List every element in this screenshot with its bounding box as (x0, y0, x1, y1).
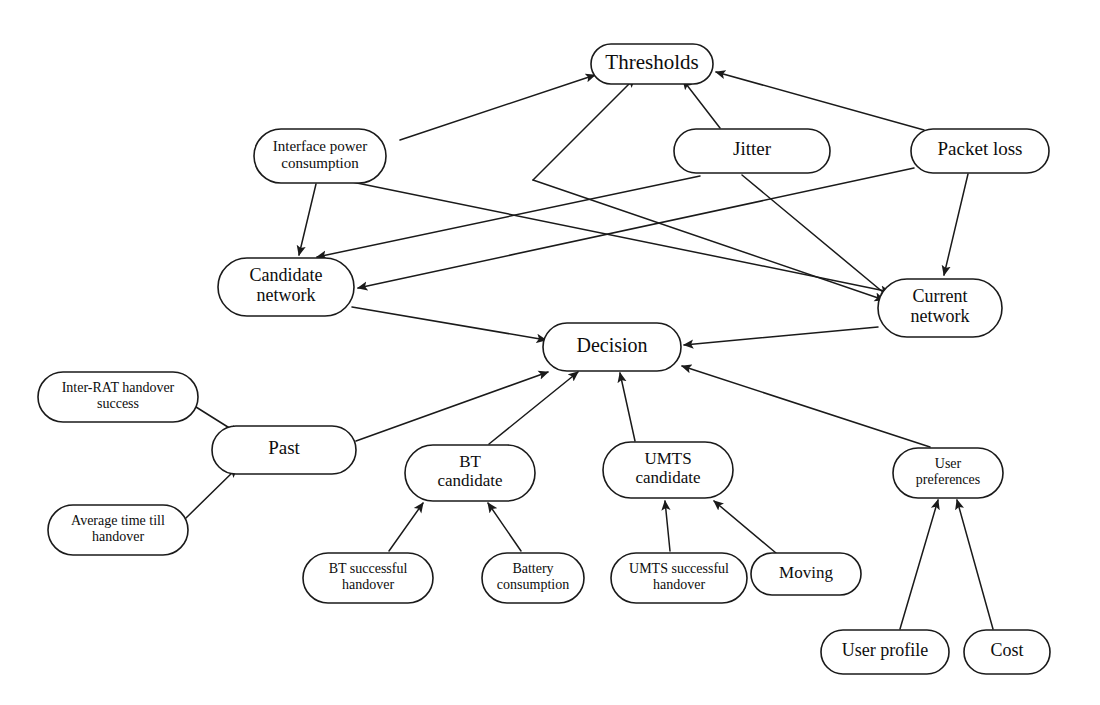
node-label-packet_loss: Packet loss (938, 138, 1023, 159)
node-cost[interactable]: Cost (964, 630, 1050, 674)
node-packet_loss[interactable]: Packet loss (911, 129, 1049, 173)
edge-candidate_net-to-decision (352, 307, 546, 340)
node-label-umts_candidate: UMTS (644, 449, 691, 468)
edge-jitter-to-thresholds (683, 80, 720, 128)
node-label-interface_power: Interface power (273, 138, 368, 154)
node-label-user_prefs: User (935, 456, 962, 471)
node-label-thresholds: Thresholds (605, 50, 698, 74)
node-label-bt_candidate: candidate (437, 471, 502, 490)
node-bt_success[interactable]: BT successfulhandover (303, 553, 433, 603)
edge-packet_loss-to-thresholds (716, 72, 924, 130)
edge-thresholds-to-current_net (533, 180, 884, 300)
node-label-moving: Moving (779, 563, 833, 582)
edge-packet_loss-to-candidate_net (358, 168, 914, 288)
edge-jitter-to-candidate_net (317, 176, 700, 257)
node-label-candidate_net: network (257, 285, 316, 305)
node-label-umts_success: handover (653, 577, 705, 592)
node-past[interactable]: Past (212, 426, 356, 474)
node-label-inter_rat: Inter-RAT handover (62, 380, 175, 395)
node-label-current_net: Current (913, 286, 968, 306)
node-moving[interactable]: Moving (751, 553, 861, 595)
node-label-jitter: Jitter (733, 138, 772, 159)
node-label-user_prefs: preferences (916, 472, 981, 487)
node-label-interface_power: consumption (281, 155, 359, 171)
edge-bt_candidate-to-decision (489, 372, 578, 444)
node-thresholds[interactable]: Thresholds (591, 44, 713, 84)
node-label-umts_candidate: candidate (635, 468, 700, 487)
edge-interface_power-to-thresholds (400, 75, 595, 140)
node-current_net[interactable]: Currentnetwork (878, 279, 1002, 337)
nodes-layer: ThresholdsInterface powerconsumptionJitt… (38, 44, 1050, 674)
node-candidate_net[interactable]: Candidatenetwork (218, 258, 354, 316)
edge-moving-to-umts_candidate (714, 501, 776, 553)
node-jitter[interactable]: Jitter (674, 129, 830, 173)
bayesian-network-diagram: ThresholdsInterface powerconsumptionJitt… (0, 0, 1100, 705)
edge-past-to-decision (356, 372, 548, 441)
node-label-bt_success: BT successful (329, 561, 408, 576)
node-label-user_profile: User profile (842, 640, 928, 660)
edge-interface_power-to-candidate_net (299, 184, 316, 255)
node-decision[interactable]: Decision (543, 323, 681, 371)
node-user_profile[interactable]: User profile (821, 630, 949, 674)
edge-user_profile-to-user_prefs (900, 500, 938, 629)
node-label-avg_time: Average time till (71, 513, 165, 528)
node-interface_power[interactable]: Interface powerconsumption (254, 129, 386, 183)
edge-bt_success-to-bt_candidate (389, 503, 423, 551)
edge-jitter-to-current_net (742, 175, 890, 298)
node-inter_rat[interactable]: Inter-RAT handoversuccess (38, 372, 198, 422)
node-label-avg_time: handover (92, 529, 144, 544)
node-label-umts_success: UMTS successful (629, 561, 729, 576)
edge-battery-to-bt_candidate (488, 503, 521, 551)
edge-interface_power-to-current_net (352, 182, 890, 292)
node-umts_success[interactable]: UMTS successfulhandover (611, 553, 747, 603)
node-umts_candidate[interactable]: UMTScandidate (603, 442, 733, 498)
node-label-cost: Cost (990, 640, 1023, 660)
edge-current_net-to-decision (684, 327, 878, 345)
edge-umts_candidate-to-decision (620, 373, 635, 441)
node-label-past: Past (268, 437, 300, 458)
node-label-bt_candidate: BT (459, 452, 481, 471)
edge-avg_time-to-past (186, 468, 237, 518)
node-label-battery: consumption (497, 577, 569, 592)
edge-cost-to-user_prefs (957, 500, 993, 629)
node-label-inter_rat: success (97, 396, 139, 411)
edge-packet_loss-to-current_net (944, 174, 968, 275)
node-label-bt_success: handover (342, 577, 394, 592)
node-user_prefs[interactable]: Userpreferences (893, 448, 1003, 498)
edge-candidate_net-to-thresholds (533, 78, 635, 180)
node-avg_time[interactable]: Average time tillhandover (48, 505, 188, 555)
node-label-current_net: network (911, 306, 970, 326)
edge-umts_success-to-umts_candidate (665, 501, 670, 551)
node-label-decision: Decision (576, 334, 647, 356)
diagram-canvas: ThresholdsInterface powerconsumptionJitt… (0, 0, 1100, 705)
node-label-candidate_net: Candidate (250, 265, 323, 285)
node-battery[interactable]: Batteryconsumption (482, 553, 584, 603)
node-bt_candidate[interactable]: BTcandidate (405, 445, 535, 501)
node-label-battery: Battery (512, 561, 553, 576)
edge-user_prefs-to-decision (682, 366, 930, 447)
